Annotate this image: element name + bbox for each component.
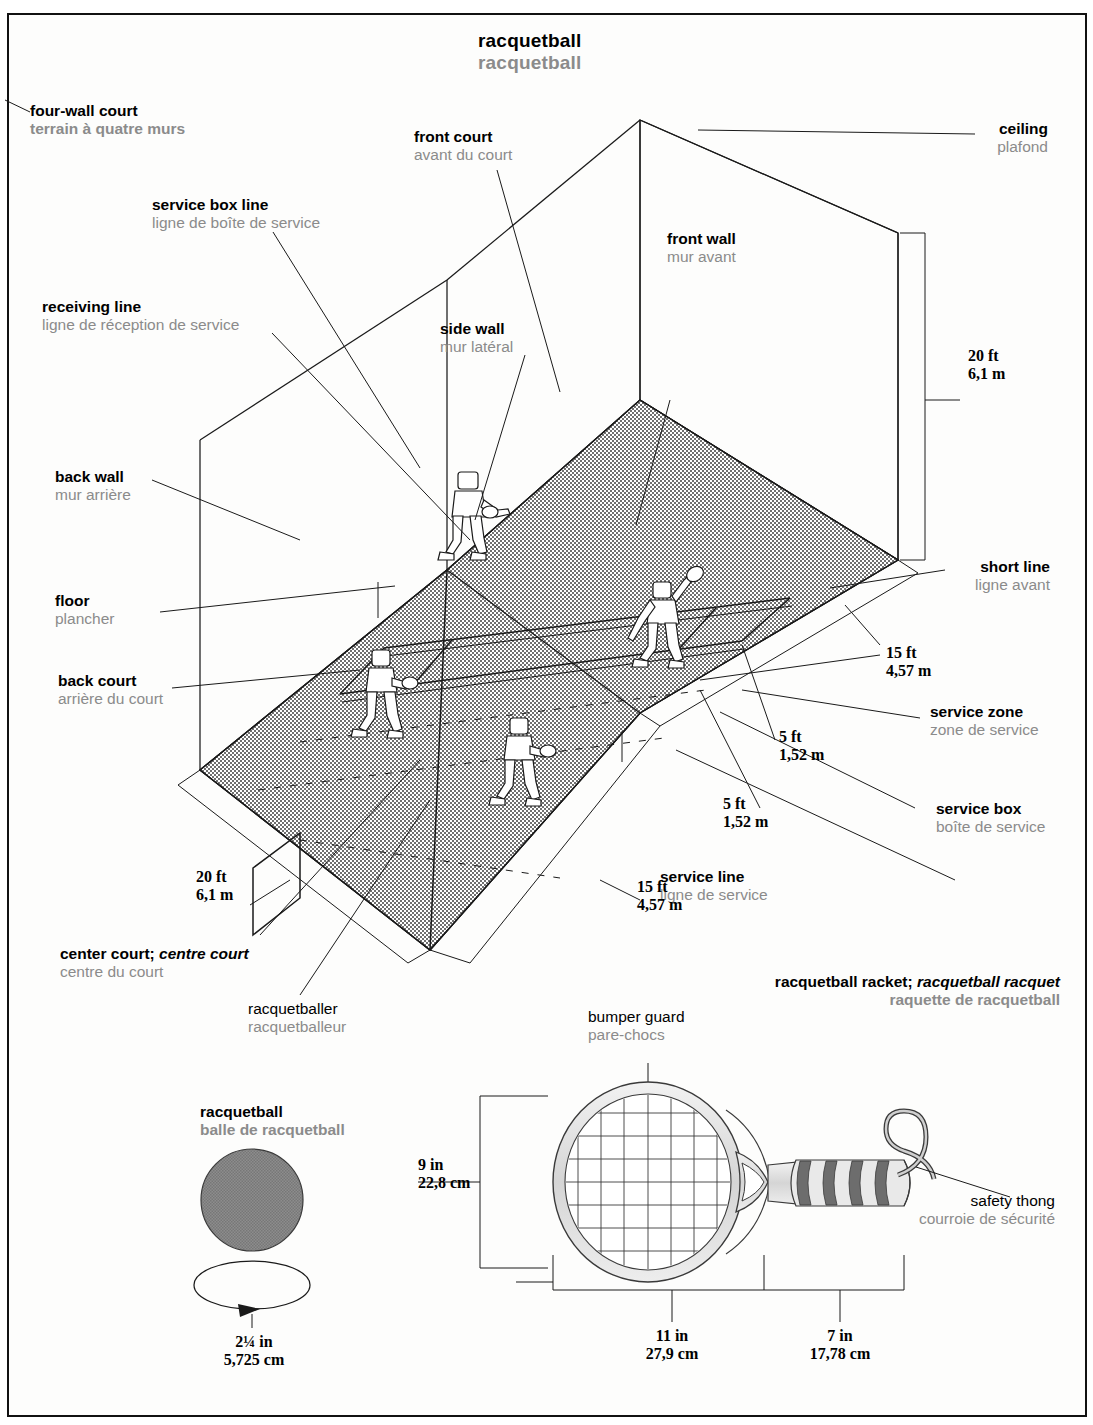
dimension-head-width: 9 in 22,8 cm [418,1156,470,1192]
dimension-handle-length: 7 in 17,78 cm [788,1327,892,1363]
dimension-head-length: 11 in 27,9 cm [620,1327,724,1363]
racket-illustration [0,0,1093,1425]
